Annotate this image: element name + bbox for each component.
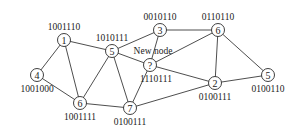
node-id-label: 4: [35, 70, 40, 81]
graph-nodes: 146573?625: [31, 24, 275, 115]
node-code-label: 0100111: [114, 117, 147, 127]
graph-node: 5: [262, 69, 275, 82]
edge-n6b-n5b: [218, 30, 268, 75]
node-id-label: 2: [213, 78, 218, 89]
edge-n6a-n7: [80, 103, 130, 108]
node-id-label: 6: [78, 98, 83, 109]
node-id-label: 5: [266, 70, 271, 81]
graph-node: 1: [58, 34, 71, 47]
edge-n5a-n7: [112, 51, 130, 108]
graph-node: 6: [74, 97, 87, 110]
node-code-label: 1001110: [48, 22, 81, 32]
edge-n6b-n2: [215, 30, 218, 83]
edge-n6a-n5a: [80, 51, 112, 103]
node-id-label: 5: [110, 46, 115, 57]
network-graph-diagram: 146573?625 10011101001000100111110101110…: [0, 0, 303, 129]
node-id-label: 1: [62, 35, 67, 46]
graph-node: 7: [124, 102, 137, 115]
node-code-label: 1001000: [20, 84, 54, 94]
node-code-label: 0010110: [144, 12, 177, 22]
edge-n2-n5b: [215, 75, 268, 83]
graph-node: 6: [212, 24, 225, 37]
node-id-label: 7: [128, 103, 133, 114]
node-code-label: 0100111: [199, 92, 232, 102]
graph-node: 3: [154, 24, 167, 37]
node-id-label: ?: [148, 60, 153, 71]
node-code-label: 1110111: [140, 74, 172, 84]
node-code-label: 1010111: [96, 33, 129, 43]
graph-node: 2: [209, 77, 222, 90]
node-code-label: 1001111: [64, 112, 96, 122]
node-id-label: 6: [216, 25, 221, 36]
edge-n1-n6a: [64, 40, 80, 103]
graph-node: 4: [31, 69, 44, 82]
new-node-annotation: New node: [134, 46, 173, 56]
graph-node: 5: [106, 45, 119, 58]
graph-node: ?: [144, 59, 157, 72]
node-id-label: 3: [158, 25, 163, 36]
node-code-label: 0110110: [202, 12, 235, 22]
edge-nq-n7: [130, 65, 150, 108]
node-code-label: 0100110: [252, 84, 285, 94]
